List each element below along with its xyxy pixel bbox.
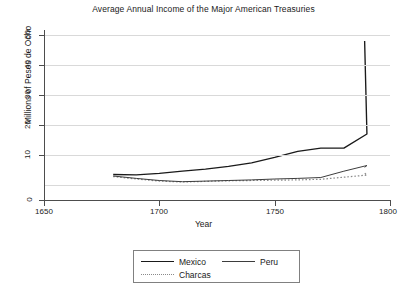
y-tick-label-50: 50 — [23, 24, 32, 46]
legend-label-mexico: Mexico — [179, 257, 206, 267]
y-axis-line — [44, 30, 45, 201]
gridline-30 — [44, 95, 390, 96]
legend-label-peru: Peru — [260, 257, 278, 267]
y-tick-20 — [39, 125, 44, 126]
x-tick-label-1700: 1700 — [139, 207, 179, 216]
x-tick-label-1650: 1650 — [24, 207, 64, 216]
x-axis-title: Year — [0, 219, 407, 229]
y-tick-label-30: 30 — [23, 84, 32, 106]
gridline-50 — [44, 35, 390, 36]
y-tick-label-40: 40 — [23, 54, 32, 76]
gridline-40 — [44, 65, 390, 66]
y-tick-30 — [39, 95, 44, 96]
chart-figure: Average Annual Income of the Major Ameri… — [0, 0, 407, 291]
chart-title: Average Annual Income of the Major Ameri… — [0, 4, 407, 14]
gridline-10 — [44, 155, 390, 156]
x-tick-1750 — [275, 201, 276, 206]
legend-item-mexico[interactable]: Mexico — [141, 255, 206, 268]
legend-item-peru[interactable]: Peru — [222, 255, 278, 268]
gridline-0 — [44, 185, 390, 186]
x-tick-label-1750: 1750 — [255, 207, 295, 216]
legend-item-charcas[interactable]: Charcas — [141, 268, 211, 281]
x-tick-1700 — [159, 201, 160, 206]
series-lines — [44, 30, 390, 200]
x-axis-line — [44, 200, 391, 201]
chart-legend: Mexico Peru Charcas — [133, 250, 300, 283]
y-tick-40 — [39, 65, 44, 66]
y-tick-label-20: 20 — [23, 114, 32, 136]
dotted-line-swatch-icon — [141, 270, 174, 279]
y-tick-label-10: 10 — [23, 144, 32, 166]
solid-line-swatch-icon — [141, 257, 174, 266]
x-tick-label-1800: 1800 — [368, 207, 407, 216]
y-tick-50 — [39, 35, 44, 36]
y-tick-10 — [39, 155, 44, 156]
x-tick-1650 — [44, 201, 45, 206]
x-tick-1800 — [390, 201, 391, 206]
gridline-20 — [44, 125, 390, 126]
plot-area — [44, 30, 390, 200]
solid-thin-line-swatch-icon — [222, 257, 255, 266]
legend-label-charcas: Charcas — [179, 270, 211, 280]
